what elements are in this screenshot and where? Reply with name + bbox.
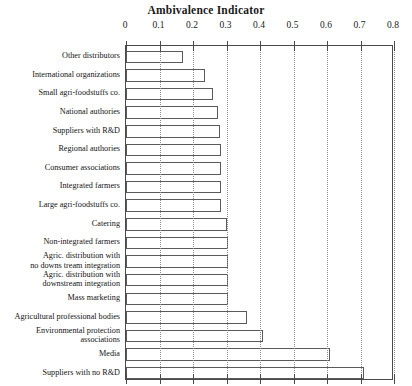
category-label: Integrated farmers — [0, 181, 120, 190]
category-label: Suppliers with R&D — [0, 126, 120, 135]
bar — [126, 293, 228, 306]
x-tick-label: 0.7 — [354, 20, 366, 30]
plot-area — [125, 45, 393, 380]
x-axis-tick — [361, 41, 362, 51]
x-axis-tick-bottom — [126, 374, 127, 384]
bar — [126, 51, 183, 64]
x-tick-label: 0.8 — [387, 20, 399, 30]
bar — [126, 144, 221, 157]
x-axis-tick — [294, 41, 295, 51]
category-label: Agric. distribution with downstream inte… — [0, 270, 120, 288]
x-axis-tick-bottom — [193, 374, 194, 384]
category-label: Large agri-foodstuffs co. — [0, 200, 120, 209]
x-axis-tick — [160, 41, 161, 51]
bar — [126, 162, 221, 175]
x-axis-tick-bottom — [160, 374, 161, 384]
gridline — [227, 46, 228, 379]
x-axis-tick-bottom — [361, 374, 362, 384]
x-axis-tick — [327, 41, 328, 51]
gridline — [260, 46, 261, 379]
y-axis-category-labels: Other distributorsInternational organiza… — [0, 45, 123, 380]
x-axis-tick-bottom — [227, 374, 228, 384]
x-tick-label: 0.2 — [186, 20, 198, 30]
x-axis-tick — [394, 41, 395, 51]
category-label: Non-integrated farmers — [0, 237, 120, 246]
x-axis-tick — [227, 41, 228, 51]
bar — [126, 181, 221, 194]
bar — [126, 274, 228, 287]
ambivalence-indicator-chart: Ambivalence Indicator 00.10.20.30.40.50.… — [0, 0, 412, 386]
category-label: National authories — [0, 107, 120, 116]
category-label: International organizations — [0, 70, 120, 79]
x-axis-tick-labels: 00.10.20.30.40.50.60.70.8 — [0, 20, 412, 34]
bar — [126, 255, 228, 268]
gridline — [294, 46, 295, 379]
gridline — [327, 46, 328, 379]
bar — [126, 237, 228, 250]
bar — [126, 88, 213, 101]
x-tick-label: 0.3 — [220, 20, 232, 30]
gridline — [394, 46, 395, 379]
x-tick-label: 0.5 — [287, 20, 299, 30]
bar — [126, 330, 263, 343]
category-label: Agric. distribution with no downs tream … — [0, 251, 120, 269]
x-axis-tick-bottom — [327, 374, 328, 384]
category-label: Environmental protection associations — [0, 326, 120, 344]
category-label: Small agri-foodstuffs co. — [0, 88, 120, 97]
bar — [126, 199, 221, 212]
x-tick-label: 0.6 — [320, 20, 332, 30]
gridline — [193, 46, 194, 379]
x-axis-tick — [126, 41, 127, 51]
x-axis-tick — [193, 41, 194, 51]
category-label: Regional authories — [0, 144, 120, 153]
category-label: Agricultural professional bodies — [0, 312, 120, 321]
x-axis-tick-bottom — [394, 374, 395, 384]
chart-title: Ambivalence Indicator — [0, 4, 412, 16]
category-label: Suppliers with no R&D — [0, 368, 120, 377]
category-label: Catering — [0, 219, 120, 228]
bar — [126, 106, 218, 119]
gridline — [361, 46, 362, 379]
category-label: Consumer associations — [0, 163, 120, 172]
bar — [126, 348, 330, 361]
x-tick-label: 0.4 — [253, 20, 265, 30]
x-axis-tick-bottom — [294, 374, 295, 384]
x-axis-tick-bottom — [260, 374, 261, 384]
x-tick-label: 0 — [123, 20, 128, 30]
x-axis-tick — [260, 41, 261, 51]
category-label: Other distributors — [0, 51, 120, 60]
bar — [126, 125, 220, 138]
x-tick-label: 0.1 — [153, 20, 165, 30]
bar — [126, 367, 364, 380]
category-label: Mass marketing — [0, 293, 120, 302]
category-label: Media — [0, 349, 120, 358]
bar — [126, 311, 247, 324]
bars-layer — [126, 46, 392, 379]
gridline — [160, 46, 161, 379]
bar — [126, 218, 227, 231]
